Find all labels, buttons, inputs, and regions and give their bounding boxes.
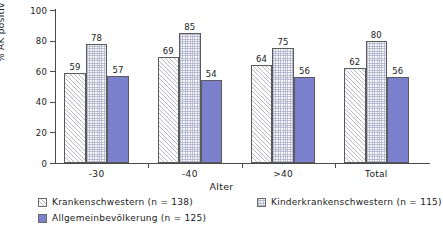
chart-legend: Krankenschwestern (n = 138)Kinderkranken… [38,197,438,231]
y-axis-tick-label: 20 [36,128,47,138]
plot-area: 597857698554647556628056 [55,10,428,163]
x-axis-category-label: -30 [89,169,105,179]
legend-label: Krankenschwestern (n = 138) [52,197,193,207]
bar-value-label: 69 [163,46,174,56]
bar-value-label: 56 [392,66,403,76]
bar-value-label: 78 [91,33,102,43]
legend-swatch [38,198,47,207]
bar: 64 [251,65,273,163]
bar-value-label: 75 [278,37,289,47]
y-axis-label: % AK positiv [0,2,6,62]
y-axis-tick: 0 [50,163,55,164]
bar-value-label: 54 [206,69,217,79]
bar-chart: % AK positiv 020406080100 59785769855464… [0,0,443,236]
x-axis-tick [335,164,336,168]
bar: 56 [387,77,409,163]
legend-label: Kinderkrankenschwestern (n = 115) [271,197,442,207]
x-axis-tick [242,164,243,168]
bar: 56 [294,77,316,163]
x-axis-line [55,163,430,164]
bar: 69 [158,57,180,163]
x-axis-label: Alter [0,181,443,192]
x-axis-category-label: >40 [273,169,293,179]
legend-label: Allgemeinbevölkerung (n = 125) [52,213,206,223]
x-axis-category-label: -40 [182,169,198,179]
legend-item: Allgemeinbevölkerung (n = 125) [38,213,206,223]
legend-item: Krankenschwestern (n = 138) [38,197,193,207]
y-axis-tick-label: 60 [36,67,47,77]
legend-swatch [257,198,266,207]
legend-swatch [38,214,47,223]
bar: 80 [366,41,388,163]
y-axis-tick-label: 0 [41,159,47,169]
bar: 75 [272,48,294,163]
bar-value-label: 56 [299,66,310,76]
bar-value-label: 62 [349,57,360,67]
bar: 57 [107,76,129,163]
bar: 62 [344,68,366,163]
x-axis-category-label: Total [365,169,388,179]
legend-item: Kinderkrankenschwestern (n = 115) [257,197,442,207]
y-axis-tick-label: 100 [30,6,47,16]
y-axis-tick-label: 40 [36,97,47,107]
bar-value-label: 59 [70,62,81,72]
bar-value-label: 64 [256,54,267,64]
y-axis-tick-label: 80 [36,36,47,46]
bar: 78 [86,44,108,163]
bar: 54 [201,80,223,163]
bar: 85 [179,33,201,163]
x-axis-tick [148,164,149,168]
bar-value-label: 85 [184,22,195,32]
bar-value-label: 57 [113,65,124,75]
bar-value-label: 80 [371,30,382,40]
bar: 59 [64,73,86,163]
